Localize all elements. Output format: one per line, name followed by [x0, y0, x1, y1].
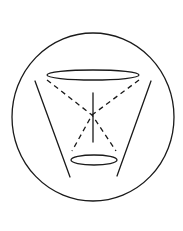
bottom-ellipse: [71, 155, 117, 165]
dashed-diagonal-left-to-right: [47, 80, 116, 151]
dashed-diagonal-right-to-left: [72, 80, 139, 151]
top-ellipse: [47, 70, 139, 80]
right-side-line: [117, 81, 151, 176]
left-side-line: [35, 81, 70, 177]
diagram-canvas: [0, 0, 183, 231]
cone-diagram: [0, 0, 183, 231]
